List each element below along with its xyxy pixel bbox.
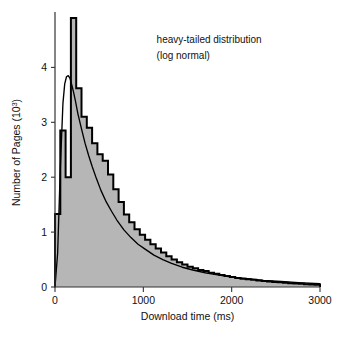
chart-annotation-label: (log normal) bbox=[157, 50, 210, 61]
x-tick-label: 1000 bbox=[132, 294, 156, 306]
y-tick-label: 4 bbox=[41, 61, 47, 73]
y-tick-label: 3 bbox=[41, 116, 47, 128]
y-tick-label: 2 bbox=[41, 171, 47, 183]
y-axis-title: Number of Pages (103) bbox=[10, 99, 22, 206]
y-tick-label: 0 bbox=[41, 281, 47, 293]
x-axis-title: Download time (ms) bbox=[141, 310, 234, 322]
chart-annotation-label: heavy-tailed distribution bbox=[157, 34, 262, 45]
x-tick-label: 2000 bbox=[220, 294, 244, 306]
y-tick-label: 1 bbox=[41, 226, 47, 238]
histogram-chart: 01234 0100020003000 Download time (ms) N… bbox=[0, 0, 350, 337]
chart-figure: 01234 0100020003000 Download time (ms) N… bbox=[0, 0, 350, 337]
x-tick-label: 0 bbox=[52, 294, 58, 306]
x-tick-label: 3000 bbox=[308, 294, 332, 306]
